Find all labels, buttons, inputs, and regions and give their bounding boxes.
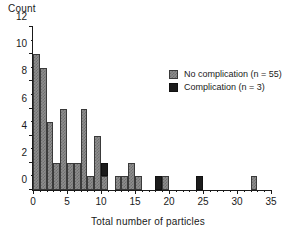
x-axis-tick-minor: [217, 190, 218, 192]
chart-legend: No complication (n = 55) Complication (n…: [169, 68, 282, 94]
legend-swatch-complication: [169, 83, 178, 92]
histogram-bar: [162, 176, 169, 190]
histogram-bar: [101, 176, 108, 190]
histogram-figure: Count 024681012 05101520253035 Total num…: [0, 0, 296, 241]
y-axis-tick-label: 0: [21, 175, 27, 185]
legend-item-complication: Complication (n = 3): [169, 81, 282, 94]
histogram-bar: [251, 176, 258, 190]
x-axis-tick-minor: [128, 190, 129, 192]
x-axis-tick-label: 20: [163, 197, 174, 207]
x-axis-tick-minor: [155, 190, 156, 192]
y-axis-tick-label: 12: [16, 12, 27, 22]
x-axis-tick-minor: [94, 190, 95, 192]
histogram-bar: [135, 176, 142, 190]
histogram-bar: [47, 122, 54, 190]
x-axis-tick-major: [101, 190, 102, 194]
legend-swatch-no-complication: [169, 70, 178, 79]
x-axis-tick-minor: [230, 190, 231, 192]
histogram-bar: [196, 176, 203, 190]
x-axis-tick-major: [237, 190, 238, 194]
x-axis-tick-minor: [149, 190, 150, 192]
histogram-bar: [33, 54, 40, 190]
x-axis-tick-major: [67, 190, 68, 194]
histogram-bar: [74, 163, 81, 190]
x-axis-tick-label: 35: [265, 197, 276, 207]
y-axis-tick-label: 4: [21, 121, 27, 131]
x-axis-tick-minor: [40, 190, 41, 192]
x-axis-tick-minor: [244, 190, 245, 192]
x-axis-tick-major: [135, 190, 136, 194]
x-axis-tick-minor: [223, 190, 224, 192]
histogram-bar: [155, 176, 162, 190]
histogram-bar: [81, 109, 88, 191]
x-axis-tick-minor: [53, 190, 54, 192]
x-axis-tick-minor: [189, 190, 190, 192]
x-axis-tick-minor: [87, 190, 88, 192]
x-axis-tick-minor: [264, 190, 265, 192]
x-axis-tick-minor: [183, 190, 184, 192]
histogram-bar: [60, 109, 67, 191]
histogram-bar: [128, 163, 135, 190]
y-axis-tick-label: 2: [21, 148, 27, 158]
y-axis-tick-label: 6: [21, 94, 27, 104]
histogram-bar: [40, 68, 47, 190]
histogram-bar: [53, 163, 60, 190]
histogram-bar: [121, 176, 128, 190]
legend-item-no-complication: No complication (n = 55): [169, 68, 282, 81]
histogram-bar: [87, 176, 94, 190]
x-axis-tick-label: 25: [197, 197, 208, 207]
x-axis-tick-minor: [81, 190, 82, 192]
x-axis-tick-minor: [257, 190, 258, 192]
x-axis-tick-major: [203, 190, 204, 194]
x-axis-tick-minor: [60, 190, 61, 192]
y-axis-tick-label: 10: [16, 39, 27, 49]
x-axis-tick-minor: [108, 190, 109, 192]
histogram-bar: [67, 163, 74, 190]
x-axis-tick-major: [271, 190, 272, 194]
plot-area: 024681012 05101520253035: [33, 27, 271, 190]
histogram-bar: [101, 163, 108, 177]
x-axis-tick-minor: [142, 190, 143, 192]
x-axis-tick-major: [169, 190, 170, 194]
x-axis-tick-label: 10: [95, 197, 106, 207]
x-axis-tick-label: 0: [30, 197, 36, 207]
x-axis-tick-minor: [210, 190, 211, 192]
x-axis-tick-minor: [47, 190, 48, 192]
x-axis-tick-label: 30: [231, 197, 242, 207]
x-axis-tick-minor: [121, 190, 122, 192]
x-axis-tick-label: 15: [129, 197, 140, 207]
x-axis-tick-minor: [176, 190, 177, 192]
x-axis-tick-minor: [162, 190, 163, 192]
x-axis-tick-minor: [115, 190, 116, 192]
x-axis-tick-minor: [251, 190, 252, 192]
legend-label-complication: Complication (n = 3): [184, 83, 265, 92]
histogram-bar: [94, 136, 101, 190]
y-axis-tick-minor: [31, 40, 33, 41]
x-axis-tick-label: 5: [64, 197, 70, 207]
x-axis-tick-minor: [196, 190, 197, 192]
legend-label-no-complication: No complication (n = 55): [184, 70, 282, 79]
y-axis-tick-major: [29, 26, 33, 27]
histogram-bar: [115, 176, 122, 190]
x-axis-tick-minor: [74, 190, 75, 192]
x-axis-tick-major: [33, 190, 34, 194]
x-axis-title: Total number of particles: [0, 216, 296, 227]
y-axis-tick-label: 8: [21, 66, 27, 76]
